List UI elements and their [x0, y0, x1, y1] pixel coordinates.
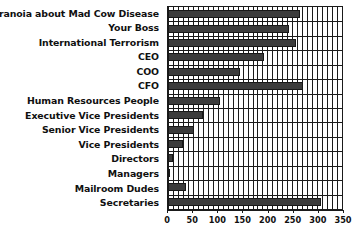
category-label: COO [0, 64, 163, 79]
bar-row [168, 21, 342, 35]
bar [168, 183, 186, 191]
tick-mark [242, 210, 243, 213]
category-axis: Paranoia about Mad Cow DiseaseYour BossI… [0, 6, 163, 210]
value-axis: 050100150200250300350 [167, 210, 343, 234]
tick-mark [167, 210, 168, 213]
category-label: Secretaries [0, 196, 163, 211]
bar-row [168, 180, 342, 194]
category-label: Managers [0, 166, 163, 181]
tick-mark [318, 210, 319, 213]
bar [168, 68, 240, 76]
bar [168, 169, 170, 177]
axis-line [167, 210, 343, 211]
category-label: Human Resources People [0, 93, 163, 108]
bar-row [168, 108, 342, 122]
category-label: Senior Vice Presidents [0, 123, 163, 138]
bar-row [168, 122, 342, 136]
tick-label: 0 [164, 215, 170, 225]
bar [168, 10, 300, 18]
tick-mark [343, 210, 344, 213]
tick-label: 100 [209, 215, 226, 225]
category-label: Your Boss [0, 21, 163, 36]
category-label: CEO [0, 50, 163, 65]
tick-mark [192, 210, 193, 213]
category-label: Directors [0, 152, 163, 167]
bar-chart: Paranoia about Mad Cow DiseaseYour BossI… [0, 0, 354, 234]
tick-mark [293, 210, 294, 213]
bar [168, 198, 321, 206]
tick-label: 300 [309, 215, 326, 225]
bar [168, 111, 203, 119]
bar [168, 97, 220, 105]
bar [168, 82, 303, 90]
tick-label: 350 [334, 215, 351, 225]
category-label: Mailroom Dudes [0, 181, 163, 196]
bar-row [168, 151, 342, 165]
bar-row [168, 7, 342, 21]
bar [168, 126, 194, 134]
bar [168, 39, 296, 47]
tick-mark [268, 210, 269, 213]
bar-row [168, 137, 342, 151]
bar-row [168, 50, 342, 64]
bar-row [168, 65, 342, 79]
bar-row [168, 79, 342, 93]
bars-layer [168, 7, 342, 209]
bar [168, 154, 173, 162]
bar [168, 140, 183, 148]
category-label: Executive Vice Presidents [0, 108, 163, 123]
category-label: Vice Presidents [0, 137, 163, 152]
tick-label: 50 [186, 215, 197, 225]
plot-area [167, 6, 343, 210]
bar [168, 53, 264, 61]
gridline-vertical [342, 7, 343, 209]
category-label: CFO [0, 79, 163, 94]
bar [168, 25, 289, 33]
bar-row [168, 94, 342, 108]
bar-row [168, 166, 342, 180]
tick-label: 200 [259, 215, 276, 225]
bar-row [168, 194, 342, 208]
category-label: Paranoia about Mad Cow Disease [0, 6, 163, 21]
category-label: International Terrorism [0, 35, 163, 50]
tick-mark [217, 210, 218, 213]
tick-label: 150 [234, 215, 251, 225]
bar-row [168, 36, 342, 50]
tick-label: 250 [284, 215, 301, 225]
